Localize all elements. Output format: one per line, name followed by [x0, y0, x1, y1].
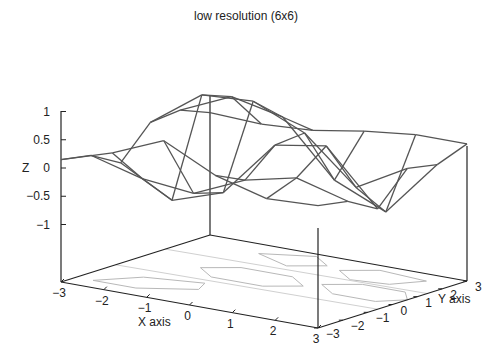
z-tick-label: −1 — [36, 218, 50, 232]
contour-line — [339, 270, 426, 284]
mesh-edge — [210, 113, 261, 124]
x-tick — [232, 310, 235, 313]
mesh-edge — [150, 110, 180, 122]
x-axis-label: X axis — [138, 315, 171, 329]
z-tick-label: 0.5 — [33, 133, 50, 147]
axes — [61, 95, 467, 328]
x-tick — [147, 294, 150, 297]
x-tick-label: 2 — [270, 324, 277, 338]
mesh-edge — [283, 117, 334, 180]
mesh-edge — [356, 187, 386, 212]
contour-line — [116, 265, 378, 309]
x-tick-label: 1 — [227, 317, 234, 331]
mesh-edge — [121, 163, 172, 200]
surface-mesh — [61, 95, 467, 212]
mesh-edge — [334, 180, 385, 212]
x-tick — [104, 287, 107, 290]
mesh-edge — [121, 122, 151, 162]
z-axis-label: Z — [22, 161, 29, 175]
mesh-edge — [91, 155, 142, 178]
mesh-edge — [313, 130, 364, 131]
x-tick-label: −3 — [52, 286, 66, 300]
mesh-edge — [245, 145, 275, 180]
mesh-edge — [180, 97, 231, 110]
mesh-edge — [267, 199, 318, 206]
contour-line — [322, 284, 408, 301]
mesh-edge — [437, 144, 467, 165]
mesh-edge — [232, 97, 283, 118]
mesh-edge — [267, 178, 297, 199]
mesh-edge — [386, 135, 416, 212]
x-tick — [275, 317, 278, 320]
mesh-edge — [112, 141, 163, 153]
mesh-edge — [407, 165, 437, 169]
x-tick-label: −1 — [138, 301, 152, 315]
mesh-edge — [245, 178, 296, 180]
contour-line — [259, 254, 328, 266]
mesh-edge — [318, 201, 348, 205]
base-contours — [93, 249, 427, 309]
y-tick-label: 1 — [425, 296, 432, 310]
left-y-edge — [61, 235, 210, 282]
mesh-edge — [416, 135, 467, 144]
y-tick-label: −2 — [351, 319, 365, 333]
z-tick-label: −0.5 — [26, 189, 50, 203]
mesh-edge — [61, 155, 91, 159]
x-tick — [190, 302, 193, 305]
y-tick-label: 0 — [401, 304, 408, 318]
surface-plot: low resolution (6x6) −1−0.500.51−3−2−101… — [0, 0, 493, 355]
mesh-edge — [305, 133, 335, 180]
y-tick-label: 3 — [475, 280, 482, 294]
back-x-edge — [210, 235, 467, 281]
x-tick-label: 3 — [313, 332, 320, 346]
mesh-edge — [180, 110, 210, 112]
mesh-edge — [164, 141, 215, 176]
y-tick-label: −3 — [326, 327, 340, 341]
x-tick-label: 0 — [184, 309, 191, 323]
x-tick-label: −2 — [95, 294, 109, 308]
mesh-edge — [296, 178, 347, 201]
mesh-edge — [334, 131, 364, 180]
z-tick-label: 1 — [43, 105, 50, 119]
z-tick-label: 0 — [43, 161, 50, 175]
y-tick-label: −1 — [376, 311, 390, 325]
mesh-edge — [364, 131, 415, 135]
chart-title: low resolution (6x6) — [194, 9, 298, 23]
mesh-edge — [194, 180, 245, 193]
contour-line — [93, 277, 205, 289]
y-axis-label: Y axis — [438, 292, 470, 306]
mesh-edge — [275, 145, 326, 146]
mesh-edge — [150, 95, 201, 123]
